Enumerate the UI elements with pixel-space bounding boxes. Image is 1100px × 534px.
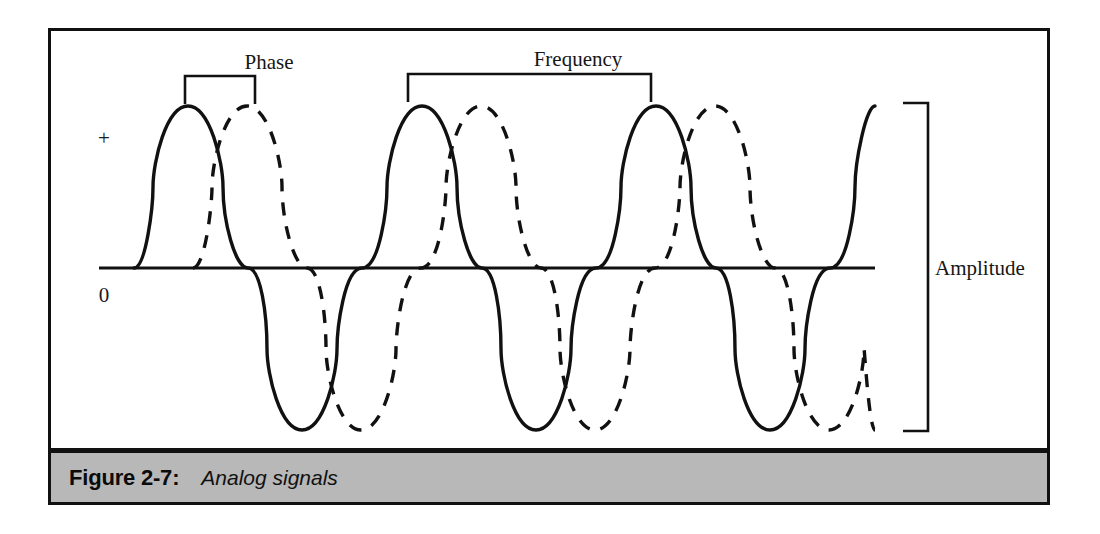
axis-label-positive: +: [91, 128, 117, 149]
annotation-label-phase: Phase: [233, 52, 305, 73]
figure-analog-signals: + 0 – Phase Frequency Amplitude Figure 2…: [0, 0, 1100, 534]
caption-figure-number: Figure 2-7:: [69, 465, 179, 491]
annotation-label-frequency: Frequency: [456, 49, 700, 70]
caption-figure-title: Analog signals: [201, 466, 338, 490]
frequency-bracket: [408, 74, 651, 102]
amplitude-bracket: [903, 103, 928, 431]
caption-text-group: Figure 2-7: Analog signals: [51, 465, 338, 491]
signal-waveform-svg: [51, 31, 1047, 448]
figure-frame: + 0 – Phase Frequency Amplitude Figure 2…: [48, 28, 1050, 505]
plot-area: + 0 – Phase Frequency Amplitude: [51, 31, 1047, 448]
axis-label-zero: 0: [91, 285, 117, 306]
phase-bracket: [185, 76, 255, 104]
axis-label-negative: –: [91, 439, 117, 448]
figure-caption-bar: Figure 2-7: Analog signals: [51, 453, 1047, 502]
annotation-label-amplitude: Amplitude: [935, 258, 1025, 279]
